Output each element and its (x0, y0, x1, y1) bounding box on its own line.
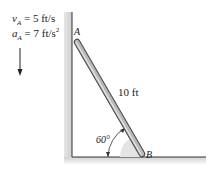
angle-arrow-icon (106, 152, 110, 157)
angle-label: 60° (96, 134, 110, 145)
floor (64, 157, 206, 165)
wall (64, 12, 72, 159)
velocity-label: vA = 5 ft/s (12, 12, 55, 27)
point-a-label: A (74, 26, 80, 37)
velocity-value: = 5 ft/s (21, 12, 55, 24)
rod-length-label: 10 ft (118, 86, 138, 98)
point-b-label: B (146, 149, 152, 160)
acceleration-value: = 7 ft/s (22, 27, 56, 39)
acceleration-exponent: 2 (56, 26, 60, 34)
acceleration-label: aA = 7 ft/s2 (12, 26, 59, 42)
down-arrow-icon (18, 48, 23, 76)
diagram-canvas: vA = 5 ft/s aA = 7 ft/s2 A 10 ft 60° B (0, 0, 221, 173)
